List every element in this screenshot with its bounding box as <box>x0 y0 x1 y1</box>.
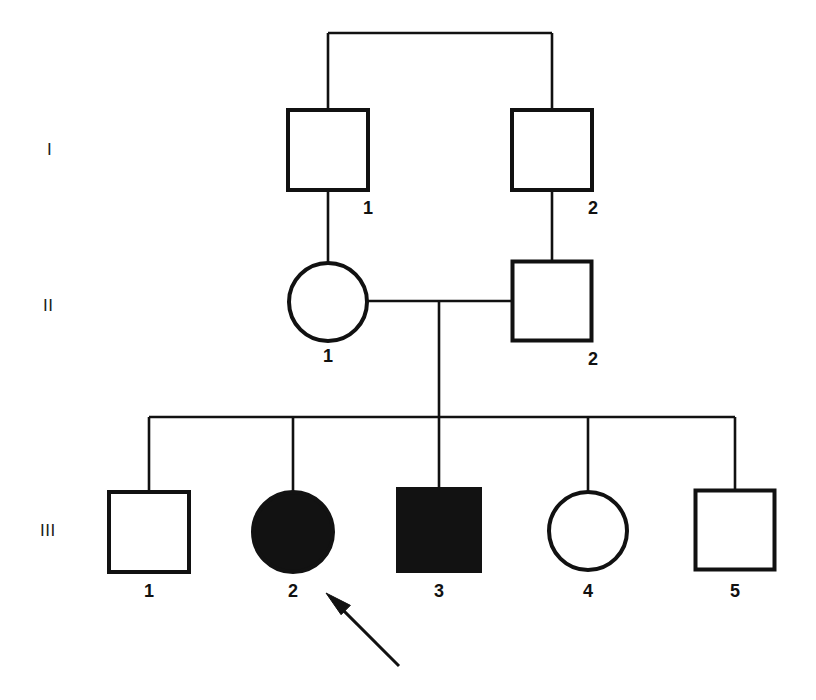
individual-number-iii-3: 3 <box>434 581 444 601</box>
proband-arrow-group <box>326 593 399 666</box>
proband-arrow-head <box>326 593 350 615</box>
connection-lines-group <box>149 33 735 493</box>
individual-number-i-2: 2 <box>588 198 598 218</box>
individual-symbol-iii-1-male-unaffected[interactable] <box>109 492 189 572</box>
generation-label-3: III <box>40 521 56 540</box>
individual-number-iii-4: 4 <box>583 581 593 601</box>
individual-number-i-1: 1 <box>363 198 373 218</box>
individual-number-ii-2: 2 <box>588 349 598 369</box>
individual-number-ii-1: 1 <box>323 346 333 366</box>
individual-symbol-i-1-male-unaffected[interactable] <box>288 110 368 190</box>
individual-number-iii-2: 2 <box>288 581 298 601</box>
generation-label-1: I <box>47 140 52 159</box>
individual-symbol-ii-2-male-unaffected[interactable] <box>513 262 592 341</box>
generation-labels-group: IIIIII <box>40 140 56 540</box>
individual-symbols-group <box>109 110 775 572</box>
generation-label-2: II <box>43 296 53 315</box>
pedigree-diagram-canvas: 121212345 IIIIII <box>0 0 816 700</box>
individual-symbol-iii-2-female-affected[interactable] <box>253 492 333 572</box>
individual-number-iii-5: 5 <box>730 581 740 601</box>
individual-symbol-ii-1-female-unaffected[interactable] <box>289 263 367 341</box>
proband-arrow-shaft <box>336 603 399 666</box>
individual-number-iii-1: 1 <box>144 581 154 601</box>
individual-symbol-iii-3-male-affected[interactable] <box>398 489 480 571</box>
pedigree-chart: 121212345 IIIIII <box>0 0 816 700</box>
individual-symbol-iii-4-female-unaffected[interactable] <box>549 492 627 570</box>
individual-symbol-i-2-male-unaffected[interactable] <box>512 110 592 190</box>
individual-symbol-iii-5-male-unaffected[interactable] <box>696 491 775 570</box>
